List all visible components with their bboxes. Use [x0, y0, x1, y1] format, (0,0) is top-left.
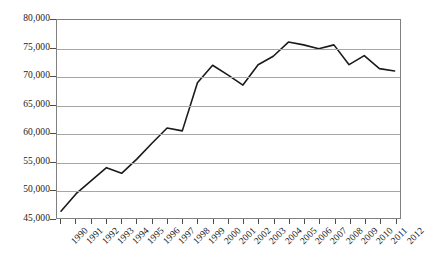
y-axis-tick-label: 65,000	[23, 100, 50, 110]
x-axis-tick-mark	[121, 219, 122, 224]
series-polyline	[61, 42, 395, 211]
y-axis-tick-mark	[50, 133, 56, 134]
y-axis-tick-label: 45,000	[23, 214, 50, 224]
x-axis-tick-mark	[335, 219, 336, 224]
x-axis-tick-label: 2012	[405, 226, 425, 246]
y-axis-tick-label: 55,000	[23, 157, 50, 167]
x-axis-tick-mark	[213, 219, 214, 224]
x-axis-tick-mark	[289, 219, 290, 224]
y-axis-tick-mark	[50, 48, 56, 49]
gridline	[57, 106, 400, 107]
x-axis-tick-mark	[319, 219, 320, 224]
x-axis-tick-mark	[167, 219, 168, 224]
x-axis-tick-mark	[182, 219, 183, 224]
x-axis-tick-mark	[396, 219, 397, 224]
gridline	[57, 77, 400, 78]
y-axis-tick-mark	[50, 19, 56, 20]
x-axis-tick-mark	[152, 219, 153, 224]
x-axis-tick-mark	[91, 219, 92, 224]
x-axis-tick-mark	[106, 219, 107, 224]
y-axis: 45,00050,00055,00060,00065,00070,00075,0…	[0, 0, 50, 270]
y-axis-tick-label: 60,000	[23, 128, 50, 138]
y-axis-tick-label: 80,000	[23, 14, 50, 24]
x-axis-tick-mark	[228, 219, 229, 224]
y-axis-tick-mark	[50, 76, 56, 77]
x-axis-tick-mark	[274, 219, 275, 224]
series-line	[57, 20, 400, 218]
y-axis-tick-mark	[50, 105, 56, 106]
x-axis-tick-mark	[75, 219, 76, 224]
y-axis-tick-mark	[50, 219, 56, 220]
x-axis-tick-mark	[304, 219, 305, 224]
gridline	[57, 191, 400, 192]
y-axis-tick-label: 75,000	[23, 43, 50, 53]
plot-area	[56, 19, 401, 219]
x-axis-tick-mark	[350, 219, 351, 224]
x-axis-tick-mark	[136, 219, 137, 224]
gridline	[57, 134, 400, 135]
y-axis-tick-label: 50,000	[23, 185, 50, 195]
y-axis-tick-label: 70,000	[23, 71, 50, 81]
gridline	[57, 163, 400, 164]
x-axis-tick-mark	[197, 219, 198, 224]
x-axis-tick-mark	[380, 219, 381, 224]
y-axis-tick-mark	[50, 162, 56, 163]
gridline	[57, 49, 400, 50]
x-axis-tick-mark	[258, 219, 259, 224]
x-axis-tick-mark	[365, 219, 366, 224]
y-axis-tick-mark	[50, 190, 56, 191]
x-axis-tick-mark	[243, 219, 244, 224]
x-axis-tick-mark	[60, 219, 61, 224]
